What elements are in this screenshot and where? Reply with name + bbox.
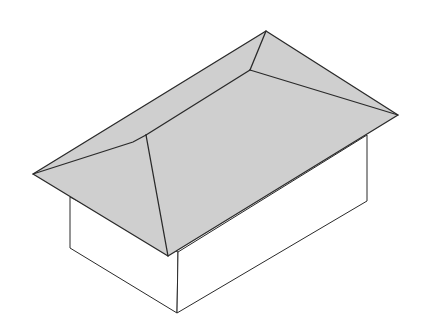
hip-roof-house-diagram — [0, 0, 435, 329]
